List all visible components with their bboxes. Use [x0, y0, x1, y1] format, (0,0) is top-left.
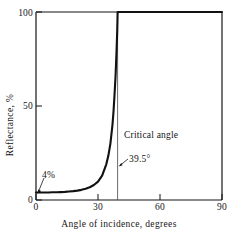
annotation-critical-angle-value: 39.5°	[129, 154, 150, 164]
x-tick-label-30: 30	[93, 202, 103, 212]
axes-frame	[36, 12, 222, 200]
chart-figure: 0 30 60 90 0 50 100 Angle of incidence, …	[0, 0, 238, 242]
annotation-critical-angle: Critical angle	[124, 130, 178, 140]
reflectance-curve	[36, 12, 222, 192]
x-axis-ticks	[36, 194, 222, 200]
y-tick-label-0: 0	[14, 195, 33, 205]
x-tick-label-0: 0	[34, 202, 39, 212]
y-axis-title: Reflectance, %	[5, 94, 15, 156]
x-axis-title: Angle of incidence, degrees	[61, 219, 177, 229]
annotation-four-percent: 4%	[42, 170, 55, 180]
critical-angle-leader-arrow	[119, 159, 128, 167]
y-tick-label-100: 100	[9, 8, 33, 18]
y-tick-label-50: 50	[14, 101, 33, 111]
x-tick-label-60: 60	[155, 202, 165, 212]
x-tick-label-90: 90	[217, 202, 227, 212]
